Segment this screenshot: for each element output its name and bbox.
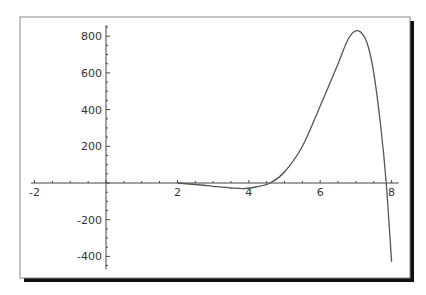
x-tick-label: 2 (174, 186, 181, 199)
y-tick-label: -200 (77, 214, 102, 227)
x-tick-label: -2 (29, 186, 40, 199)
x-tick-label: 6 (317, 186, 324, 199)
y-tick-label: 800 (81, 30, 102, 43)
y-tick-label: -400 (77, 250, 102, 263)
y-tick-label: 600 (81, 67, 102, 80)
y-tick-label: 200 (81, 140, 102, 153)
x-tick-label: 8 (388, 186, 395, 199)
chart: -22468-400-200200400600800 (0, 0, 426, 295)
y-tick-label: 400 (81, 104, 102, 117)
plot-frame (20, 17, 410, 278)
